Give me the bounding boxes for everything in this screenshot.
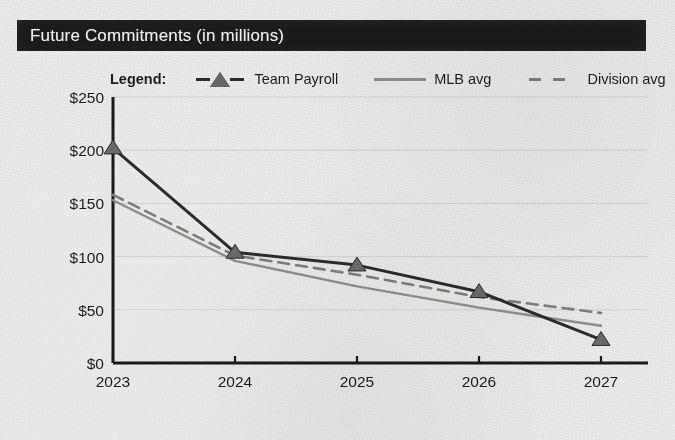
y-axis-tick-label: $250 xyxy=(70,89,105,106)
gridlines xyxy=(113,97,648,310)
x-axis-tick-labels: 20232024202520262027 xyxy=(96,373,618,390)
line-chart-svg: $0$50$100$150$200$250 202320242025202620… xyxy=(0,0,675,440)
y-axis-tick-label: $100 xyxy=(70,249,105,266)
y-axis-tick-label: $50 xyxy=(78,302,104,319)
x-axis-tick-label: 2024 xyxy=(218,373,253,390)
axis-lines xyxy=(113,97,648,363)
chart-figure: Future Commitments (in millions) Legend:… xyxy=(0,0,675,440)
y-axis-tick-label: $200 xyxy=(70,142,105,159)
y-axis-tick-label: $150 xyxy=(70,195,105,212)
x-axis-tick-label: 2025 xyxy=(340,373,374,390)
y-axis-tick-labels: $0$50$100$150$200$250 xyxy=(70,89,105,372)
y-axis-tick-label: $0 xyxy=(87,355,105,372)
data-series xyxy=(104,140,610,345)
series-line xyxy=(113,148,601,340)
x-axis-tick-label: 2027 xyxy=(584,373,618,390)
x-axis-tick-label: 2026 xyxy=(462,373,496,390)
plot-area: $0$50$100$150$200$250 202320242025202620… xyxy=(0,0,675,440)
x-axis-tick-label: 2023 xyxy=(96,373,130,390)
data-point-marker xyxy=(104,140,122,154)
